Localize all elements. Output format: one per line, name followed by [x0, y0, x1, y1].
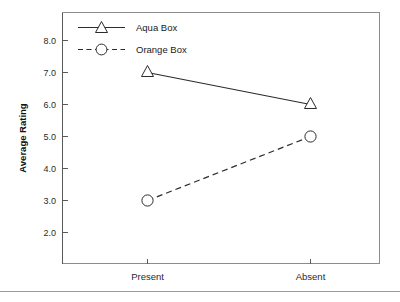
- y-tick-label-8: 8.0: [43, 36, 56, 46]
- data-point-orange-present: [142, 195, 153, 206]
- legend-label-aqua-box: Aqua Box: [136, 22, 177, 33]
- legend-label-orange-box: Orange Box: [136, 44, 187, 55]
- data-point-orange-absent: [305, 131, 316, 142]
- line-chart: 8.0 7.0 6.0 5.0 4.0 3.0 2.0 Average Rati…: [0, 0, 400, 302]
- x-tick-label-absent: Absent: [296, 271, 326, 282]
- chart-figure: 8.0 7.0 6.0 5.0 4.0 3.0 2.0 Average Rati…: [0, 0, 400, 302]
- y-tick-label-7: 7.0: [43, 68, 56, 78]
- y-tick-label-3: 3.0: [43, 196, 56, 206]
- y-tick-label-6: 6.0: [43, 100, 56, 110]
- chart-background: [0, 0, 400, 302]
- x-tick-label-present: Present: [131, 271, 164, 282]
- y-tick-label-4: 4.0: [43, 164, 56, 174]
- y-tick-label-2: 2.0: [43, 228, 56, 238]
- legend-marker-circle-icon: [96, 44, 107, 55]
- y-tick-label-5: 5.0: [43, 132, 56, 142]
- y-axis-title: Average Rating: [17, 103, 28, 173]
